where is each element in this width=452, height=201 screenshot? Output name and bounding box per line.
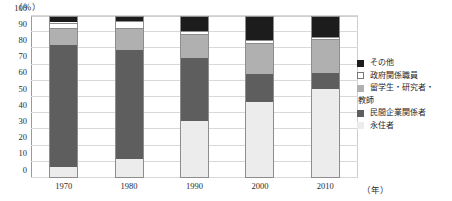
legend-swatch-icon: [357, 122, 364, 129]
bar-segment-private: [245, 74, 274, 102]
bar-segment-private: [311, 73, 340, 89]
legend-item-label: 民間企業関係者: [370, 107, 426, 120]
y-axis-tick-label: 100: [14, 3, 27, 12]
bar-segment-other: [49, 16, 78, 22]
x-axis-tick-label: 1990: [186, 182, 203, 191]
bar-segment-student: [180, 35, 209, 58]
bar-2010: [311, 16, 340, 178]
y-axis-tick-label: 10: [19, 149, 28, 158]
bar-1980: [115, 16, 144, 178]
x-axis-tick-label: 1980: [121, 182, 138, 191]
y-axis-tick-label: 90: [19, 19, 28, 28]
legend-item-label-continued: 教師: [358, 95, 452, 108]
legend-swatch-icon: [357, 60, 364, 67]
bar-segment-other: [245, 16, 274, 40]
bar-segment-gov: [49, 23, 78, 29]
bar-segment-permanent: [180, 121, 209, 179]
legend: その他政府関係職員留学生・研究者・教師民間企業関係者永住者: [357, 57, 452, 133]
x-axis-tick-label: 2000: [251, 182, 268, 191]
legend-item-label: 永住者: [370, 120, 394, 133]
bar-segment-permanent: [245, 102, 274, 178]
bar-2000: [245, 16, 274, 178]
y-axis-tick-label: 30: [19, 117, 28, 126]
legend-swatch-icon: [357, 110, 364, 117]
bar-segment-other: [115, 16, 144, 21]
plot-area: 0102030405060708090100 19701980199020002…: [31, 16, 358, 178]
legend-item-other: その他: [357, 57, 452, 70]
y-axis-tick-label: 40: [19, 100, 28, 109]
bar-segment-other: [180, 16, 209, 31]
bar-segment-student: [245, 44, 274, 75]
legend-swatch-icon: [357, 85, 364, 92]
y-axis-tick-label: 80: [19, 36, 28, 45]
bar-segment-student: [49, 29, 78, 45]
x-axis-unit-label: （年）: [362, 183, 389, 195]
bar-segment-gov: [311, 37, 340, 40]
bar-segment-permanent: [115, 159, 144, 178]
legend-swatch-icon: [357, 72, 364, 79]
stacked-bar-chart-figure: （％） 0102030405060708090100 1970198019902…: [0, 0, 452, 201]
legend-item-private: 民間企業関係者: [357, 107, 452, 120]
legend-item-gov: 政府関係職員: [357, 70, 452, 83]
legend-item-student: 留学生・研究者・: [357, 82, 452, 95]
bar-1990: [180, 16, 209, 178]
bar-segment-permanent: [49, 167, 78, 178]
y-axis-tick-label: 20: [19, 133, 28, 142]
x-axis-tick-label: 2010: [317, 182, 334, 191]
y-axis-tick-label: 0: [23, 165, 27, 174]
legend-item-label: 留学生・研究者・: [370, 82, 434, 95]
bar-1970: [49, 16, 78, 178]
legend-item-permanent: 永住者: [357, 120, 452, 133]
legend-item-label: 政府関係職員: [370, 70, 418, 83]
y-axis-tick-label: 50: [19, 84, 28, 93]
bar-segment-gov: [115, 21, 144, 29]
bar-segment-private: [49, 45, 78, 167]
bar-segment-permanent: [311, 89, 340, 178]
y-axis-tick-label: 60: [19, 68, 28, 77]
bar-segment-private: [115, 50, 144, 159]
legend-item-label: その他: [370, 57, 394, 70]
bar-segment-student: [115, 29, 144, 50]
x-axis-tick-label: 1970: [55, 182, 72, 191]
y-axis-tick-label: 70: [19, 52, 28, 61]
bar-segment-other: [311, 16, 340, 37]
bar-segment-student: [311, 40, 340, 72]
bar-segment-private: [180, 58, 209, 120]
bar-segment-gov: [180, 31, 209, 36]
bar-segment-gov: [245, 40, 274, 43]
